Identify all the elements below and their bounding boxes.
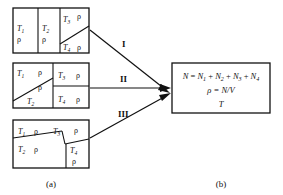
config-III-cell-1-temperature: T1 [18, 127, 25, 137]
config-I-cell-2-temperature: T2 [42, 24, 49, 34]
arrow-I-line [90, 30, 166, 90]
result-equation-line2: ρ = N/V [206, 85, 236, 95]
config-II-cell-1-temperature: T1 [17, 69, 24, 79]
arrow-III-head [159, 93, 171, 101]
panel-a-label: (a) [46, 179, 56, 189]
config-II-cell-2-density: ρ [38, 83, 42, 92]
config-I-diagonal [60, 26, 89, 44]
config-II-cell-1-density: ρ [38, 68, 42, 77]
arrow-III-label: III [118, 109, 129, 119]
config-I-cell-3-temperature: T3 [63, 15, 70, 25]
config-II-cell-3-density: ρ [76, 71, 80, 80]
panel-b-label: (b) [216, 179, 227, 189]
config-III-cell-4-density: ρ [72, 157, 76, 166]
config-III-cell-1-density: ρ [34, 127, 38, 136]
config-II-diagonal [13, 78, 53, 101]
config-I-cell-1-temperature: T1 [17, 24, 24, 34]
config-II-cell-2-temperature: T2 [27, 97, 34, 107]
config-I-cell-2-density: ρ [42, 35, 46, 44]
result-equation-line3: T [219, 99, 225, 109]
result-equation-line1: N = N1 + N2 + N3 + N4 [182, 71, 260, 82]
config-III-cell-3-density: ρ [74, 126, 78, 135]
config-III-cell-2-temperature: T2 [18, 145, 25, 155]
arrow-II-label: II [120, 74, 128, 84]
figure-svg: T1 ρ T2 ρ T3 ρ T4 ρ T1 ρ T2 ρ [0, 0, 283, 195]
arrow-III-group: III [90, 93, 171, 138]
config-III-group: T1 ρ T2 ρ T3 ρ T4 ρ [13, 120, 89, 168]
config-III-cell-2-density: ρ [34, 145, 38, 154]
config-III-cell-3-temperature: T3 [53, 127, 60, 137]
config-II-cell-4-density: ρ [76, 95, 80, 104]
config-II-cell-3-temperature: T3 [58, 71, 65, 81]
config-III-divider-3 [65, 139, 89, 144]
config-III-cell-4-temperature: T4 [70, 146, 77, 156]
arrow-I-group: I [90, 30, 170, 93]
arrow-I-label: I [122, 39, 126, 49]
config-II-group: T1 ρ T2 ρ T3 ρ T4 ρ [13, 63, 89, 108]
figure-container: T1 ρ T2 ρ T3 ρ T4 ρ T1 ρ T2 ρ [0, 0, 283, 195]
config-I-cell-4-density: ρ [77, 43, 81, 52]
result-box-group: N = N1 + N2 + N3 + N4 ρ = N/V T [172, 63, 270, 113]
config-I-cell-4-temperature: T4 [63, 43, 70, 53]
config-I-cell-3-density: ρ [77, 12, 81, 21]
config-I-group: T1 ρ T2 ρ T3 ρ T4 ρ [13, 8, 89, 53]
config-II-cell-4-temperature: T4 [58, 95, 65, 105]
config-III-divider-2 [62, 131, 65, 144]
config-I-cell-1-density: ρ [17, 35, 21, 44]
